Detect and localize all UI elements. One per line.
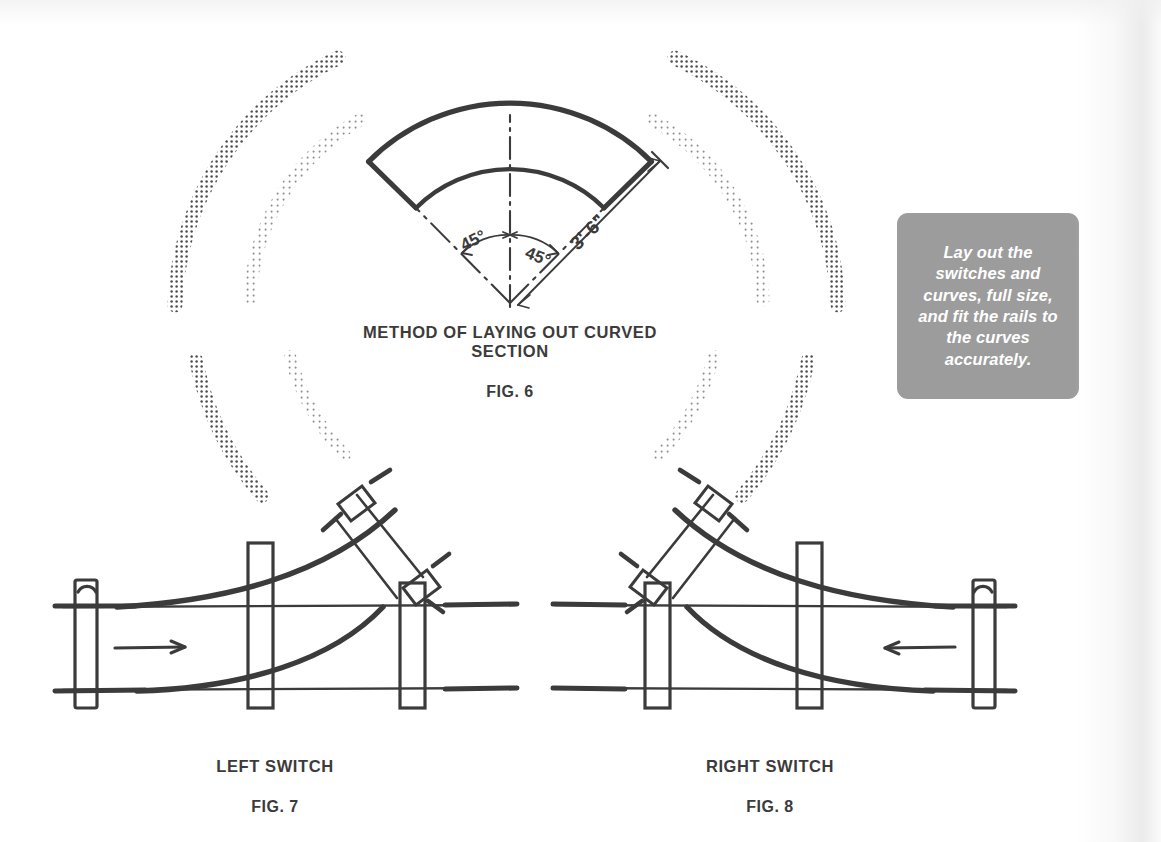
figure-7-label-text: FIG. 7 — [251, 798, 298, 815]
pull-quote-text: Lay out the switches and curves, full si… — [907, 242, 1069, 371]
figure-7-left-switch-diagram — [45, 470, 535, 720]
figure-6-label-text: FIG. 6 — [486, 383, 533, 400]
figure-7-label: FIG. 7 — [130, 779, 420, 817]
figure-7-caption: LEFT SWITCH — [130, 757, 420, 776]
figure-6-caption: METHOD OF LAYING OUT CURVED SECTION — [330, 323, 690, 362]
figure-8-caption: RIGHT SWITCH — [625, 757, 915, 776]
fig6-angle-left-label: 45° — [457, 226, 489, 254]
figure-8-label-text: FIG. 8 — [746, 798, 793, 815]
figure-6-label: FIG. 6 — [330, 364, 690, 402]
fig6-radius-label: 3'-6" — [566, 210, 610, 254]
figure-6-curved-section-diagram: 45° 45° 3'-6" — [300, 55, 720, 325]
pull-quote-callout: Lay out the switches and curves, full si… — [897, 213, 1079, 399]
page-canvas: 45° 45° 3'-6" METHOD OF LAYING OUT CURVE… — [0, 0, 1161, 842]
figure-8-direction-arrow — [885, 642, 955, 654]
figure-8-label: FIG. 8 — [625, 779, 915, 817]
figure-7-direction-arrow — [115, 641, 185, 653]
fig6-angle-right-label: 45° — [523, 243, 554, 270]
figure-8-right-switch-diagram — [535, 470, 1025, 720]
